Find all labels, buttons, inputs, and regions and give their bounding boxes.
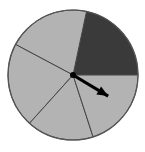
spinner-chart [0, 0, 145, 152]
spinner-pivot [70, 72, 76, 78]
spinner-figure [0, 0, 145, 152]
